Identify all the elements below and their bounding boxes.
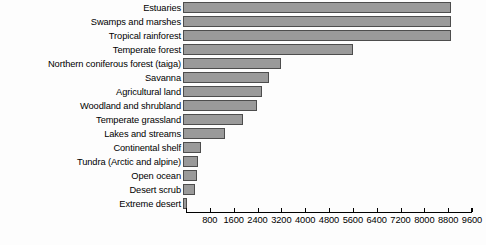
x-axis-tick: [401, 208, 402, 212]
x-axis-tick: [329, 208, 330, 212]
x-axis-tick-label: 4000: [295, 215, 315, 226]
bar-track: [183, 43, 486, 57]
chart-row: Estuaries: [0, 1, 486, 15]
bar-chart: EstuariesSwamps and marshesTropical rain…: [0, 0, 486, 245]
chart-row: Extreme desert: [0, 197, 486, 211]
bar: [183, 142, 201, 153]
bar: [183, 114, 243, 125]
category-label: Desert scrub: [0, 185, 183, 195]
x-axis-left-cap: [186, 208, 187, 213]
chart-row: Desert scrub: [0, 183, 486, 197]
x-axis-line: [186, 212, 472, 213]
bar-track: [183, 141, 486, 155]
x-axis-tick: [281, 208, 282, 212]
category-label: Estuaries: [0, 3, 183, 13]
bar-track: [183, 57, 486, 71]
x-axis-tick: [472, 208, 473, 212]
chart-rows: EstuariesSwamps and marshesTropical rain…: [0, 1, 486, 211]
chart-row: Lakes and streams: [0, 127, 486, 141]
x-axis-tick: [424, 208, 425, 212]
category-label: Continental shelf: [0, 143, 183, 153]
chart-row: Temperate forest: [0, 43, 486, 57]
chart-row: Tundra (Arctic and alpine): [0, 155, 486, 169]
bar-track: [183, 1, 486, 15]
category-label: Swamps and marshes: [0, 17, 183, 27]
bar: [183, 170, 197, 181]
bar: [183, 16, 451, 27]
bar-track: [183, 183, 486, 197]
x-axis-tick-label: 7200: [390, 215, 410, 226]
x-axis-tick-label: 8800: [438, 215, 458, 226]
category-label: Temperate grassland: [0, 115, 183, 125]
chart-row: Woodland and shrubland: [0, 99, 486, 113]
category-label: Savanna: [0, 73, 183, 83]
bar: [183, 128, 225, 139]
chart-row: Tropical rainforest: [0, 29, 486, 43]
bar: [183, 2, 451, 13]
x-axis-tick-label: 5600: [343, 215, 363, 226]
category-label: Extreme desert: [0, 199, 183, 209]
chart-row: Savanna: [0, 71, 486, 85]
chart-row: Swamps and marshes: [0, 15, 486, 29]
bar-track: [183, 197, 486, 211]
category-label: Tropical rainforest: [0, 31, 183, 41]
x-axis-tick: [258, 208, 259, 212]
bar: [183, 58, 281, 69]
category-label: Tundra (Arctic and alpine): [0, 157, 183, 167]
chart-row: Temperate grassland: [0, 113, 486, 127]
category-label: Northern coniferous forest (taiga): [0, 59, 183, 69]
x-axis-tick-label: 800: [202, 215, 217, 226]
bar: [183, 100, 257, 111]
x-axis-tick: [305, 208, 306, 212]
bar-track: [183, 155, 486, 169]
bar-track: [183, 113, 486, 127]
bar-track: [183, 169, 486, 183]
category-label: Temperate forest: [0, 45, 183, 55]
chart-row: Northern coniferous forest (taiga): [0, 57, 486, 71]
x-axis-tick-label: 8000: [414, 215, 434, 226]
x-axis-tick: [377, 208, 378, 212]
chart-row: Continental shelf: [0, 141, 486, 155]
bar-track: [183, 71, 486, 85]
chart-row: Agricultural land: [0, 85, 486, 99]
bar: [183, 86, 262, 97]
bar-track: [183, 99, 486, 113]
category-label: Open ocean: [0, 171, 183, 181]
x-axis-tick: [353, 208, 354, 212]
bar-track: [183, 127, 486, 141]
x-axis-tick: [210, 208, 211, 212]
bar-track: [183, 85, 486, 99]
bar: [183, 44, 353, 55]
bar: [183, 156, 198, 167]
chart-row: Open ocean: [0, 169, 486, 183]
x-axis-tick-label: 4800: [319, 215, 339, 226]
x-axis-tick-label: 9600: [462, 215, 482, 226]
x-axis-tick-label: 2400: [247, 215, 267, 226]
category-label: Agricultural land: [0, 87, 183, 97]
x-axis-tick-label: 6400: [367, 215, 387, 226]
category-label: Lakes and streams: [0, 129, 183, 139]
bar-track: [183, 15, 486, 29]
x-axis: 8001600240032004000480056006400720080008…: [186, 212, 472, 245]
x-axis-tick-label: 3200: [271, 215, 291, 226]
category-label: Woodland and shrubland: [0, 101, 183, 111]
x-axis-tick: [234, 208, 235, 212]
x-axis-tick-label: 1600: [224, 215, 244, 226]
bar: [183, 184, 195, 195]
bar: [183, 30, 451, 41]
bar-track: [183, 29, 486, 43]
x-axis-tick: [448, 208, 449, 212]
bar: [183, 72, 269, 83]
